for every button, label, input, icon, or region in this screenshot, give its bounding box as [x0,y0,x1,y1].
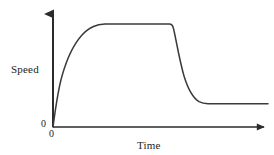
y-axis-label: Speed [11,63,39,75]
x-axis-label: Time [137,139,161,151]
y-axis-origin-tick-label: 0 [41,118,46,129]
chart-plot-area [0,0,274,155]
speed-time-chart: Speed Time 0 0 [0,0,274,155]
x-axis-origin-tick-label: 0 [49,128,54,139]
speed-curve [53,24,268,127]
